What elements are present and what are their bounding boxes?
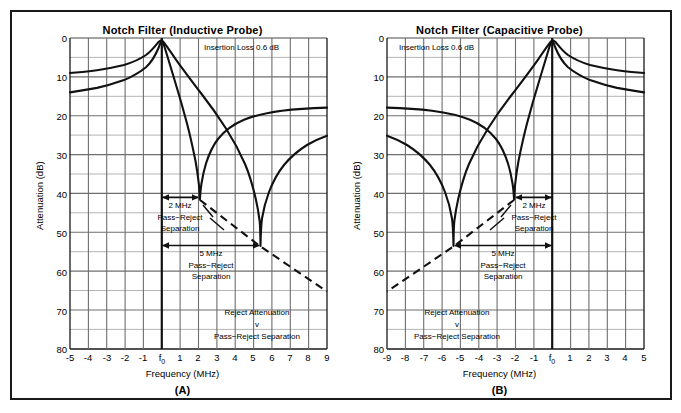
panel-b-note-line2: v [398, 320, 516, 329]
panel-a: Notch Filter (Inductive Probe) Attenuati… [12, 12, 353, 402]
panel-b-insertion-loss-label: Insertion Loss 0.6 dB [399, 43, 474, 52]
panel-a-5mhz-line1: Pass−Reject [176, 261, 246, 270]
panel-a-note-line3: Pass−Reject Separation [188, 332, 326, 341]
panel-a-note-line1: Reject Attenuation [198, 308, 316, 317]
panel-a-5mhz-line2: Separation [176, 272, 246, 281]
panel-b-5mhz-line2: Separation [468, 272, 538, 281]
panel-b-note-line3: Pass−Reject Separation [388, 332, 526, 341]
panel-a-2mhz-line1: Pass−Reject [145, 213, 215, 222]
panel-b-5mhz-line1: Pass−Reject [468, 261, 538, 270]
panel-b-2mhz-line2: Separation [499, 224, 569, 233]
panel-b-plot [329, 12, 670, 402]
panel-a-5mhz-value: 5 MHz [187, 249, 235, 258]
figure-frame: Notch Filter (Inductive Probe) Attenuati… [10, 10, 672, 400]
panel-a-note-line2: v [198, 320, 316, 329]
panel-b-5mhz-value: 5 MHz [479, 249, 527, 258]
figure-page: Notch Filter (Inductive Probe) Attenuati… [0, 0, 681, 413]
panel-a-dim-arrow-5mhz [162, 242, 260, 248]
panel-a-insertion-loss-label: Insertion Loss 0.6 dB [204, 43, 279, 52]
panel-b: Notch Filter (Capacitive Probe) Attenuat… [329, 12, 670, 402]
panel-a-2mhz-value: 2 MHz [156, 201, 204, 210]
panel-b-2mhz-line1: Pass−Reject [499, 213, 569, 222]
panel-b-dim-arrow-5mhz [454, 242, 552, 248]
panel-a-2mhz-line2: Separation [145, 224, 215, 233]
panel-b-note-line1: Reject Attenuation [398, 308, 516, 317]
panel-b-2mhz-value: 2 MHz [510, 201, 558, 210]
